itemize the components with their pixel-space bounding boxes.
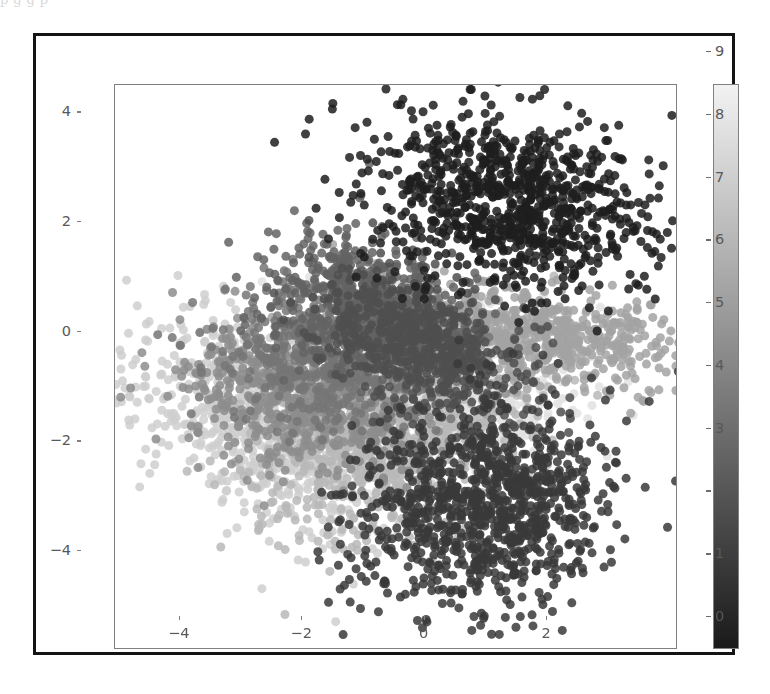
colorbar-tick-mark	[706, 51, 711, 52]
scanned-page-text-fragment: p g g p	[0, 0, 770, 8]
colorbar-tick-label: 2	[715, 482, 724, 498]
y-tick-label: 0	[35, 323, 71, 339]
colorbar-tick-label: 0	[715, 608, 724, 624]
y-tick-mark	[77, 221, 81, 222]
x-tick-label: 0	[419, 625, 428, 641]
colorbar-tick-label: 1	[715, 545, 724, 561]
colorbar-tick-label: 7	[715, 169, 724, 185]
y-tick-mark	[77, 440, 81, 441]
figure-frame: −4−202 −4−2024 0123456789	[33, 33, 735, 655]
colorbar-tick-label: 4	[715, 357, 724, 373]
x-tick-label: 2	[541, 625, 550, 641]
colorbar-tick-mark	[706, 616, 711, 617]
y-tick-label: 2	[35, 213, 71, 229]
colorbar-tick-label: 8	[715, 106, 724, 122]
colorbar-tick-mark	[706, 553, 711, 554]
colorbar-tick-label: 3	[715, 420, 724, 436]
colorbar-tick-mark	[706, 302, 711, 303]
y-tick-label: −4	[35, 542, 71, 558]
colorbar-tick-mark	[706, 239, 711, 240]
y-tick-label: 4	[35, 103, 71, 119]
x-tick-label: −2	[291, 625, 312, 641]
x-tick-mark	[424, 616, 425, 620]
y-tick-label: −2	[35, 432, 71, 448]
scatter-plot-axes	[114, 84, 677, 649]
y-tick-mark	[77, 550, 81, 551]
colorbar-tick-mark	[706, 114, 711, 115]
colorbar-tick-label: 6	[715, 231, 724, 247]
colorbar-tick-label: 5	[715, 294, 724, 310]
colorbar-tick-mark	[706, 490, 711, 491]
colorbar-tick-mark	[706, 365, 711, 366]
y-tick-mark	[77, 111, 81, 112]
x-tick-mark	[546, 616, 547, 620]
y-tick-mark	[77, 331, 81, 332]
scatter-points-canvas	[115, 85, 677, 649]
colorbar-tick-label: 9	[715, 43, 724, 59]
colorbar-tick-mark	[706, 177, 711, 178]
x-tick-label: −4	[168, 625, 189, 641]
x-tick-mark	[179, 616, 180, 620]
x-tick-mark	[301, 616, 302, 620]
colorbar-tick-mark	[706, 428, 711, 429]
